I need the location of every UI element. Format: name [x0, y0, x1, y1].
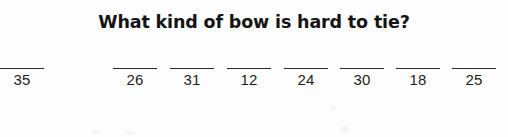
blank-number: 24	[284, 71, 328, 89]
answer-blank[interactable]: 18	[396, 62, 440, 94]
blank-rule	[340, 68, 384, 69]
answer-blank[interactable]: 30	[340, 62, 384, 94]
scan-speckle	[340, 126, 349, 132]
answer-blanks-row: 3526311224301825	[0, 62, 508, 98]
blank-number: 18	[396, 71, 440, 89]
answer-blank[interactable]: 12	[227, 62, 271, 94]
scan-speckle	[330, 105, 336, 110]
page-title: What kind of bow is hard to tie?	[0, 11, 508, 33]
blank-rule	[113, 68, 157, 69]
blank-rule	[0, 68, 44, 69]
answer-blank[interactable]: 31	[170, 62, 214, 94]
blank-number: 26	[113, 71, 157, 89]
answer-blank[interactable]: 26	[113, 62, 157, 94]
blank-rule	[396, 68, 440, 69]
blank-number: 12	[227, 71, 271, 89]
blank-rule	[452, 68, 496, 69]
blank-rule	[284, 68, 328, 69]
answer-blank[interactable]: 24	[284, 62, 328, 94]
scan-speckle	[92, 130, 99, 134]
answer-blank[interactable]: 35	[0, 62, 44, 94]
answer-blank[interactable]: 25	[452, 62, 496, 94]
blank-number: 25	[452, 71, 496, 89]
blank-number: 30	[340, 71, 384, 89]
scan-speckle	[125, 131, 135, 135]
blank-rule	[227, 68, 271, 69]
worksheet-page: What kind of bow is hard to tie? 3526311…	[0, 0, 508, 137]
blank-number: 35	[0, 71, 44, 89]
blank-number: 31	[170, 71, 214, 89]
blank-rule	[170, 68, 214, 69]
